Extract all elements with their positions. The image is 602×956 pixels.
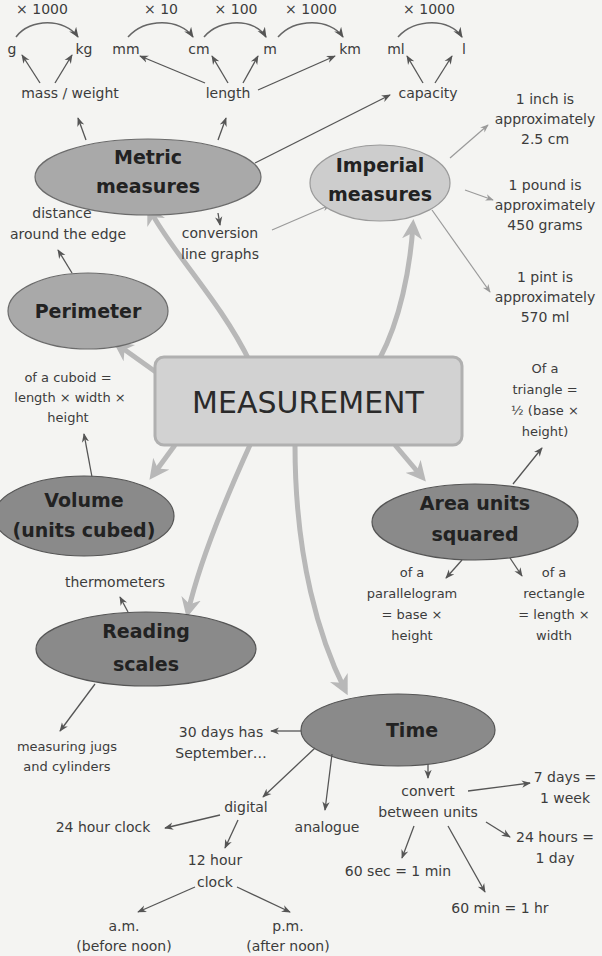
september-1: 30 days has bbox=[179, 724, 264, 740]
arrow-to-length bbox=[218, 118, 226, 140]
length-label: length bbox=[206, 85, 251, 101]
area-title-1: Area units bbox=[420, 492, 530, 514]
parallelogram-2: parallelogram bbox=[367, 586, 458, 601]
conversion-line-2: line graphs bbox=[181, 246, 259, 262]
curve-m-km bbox=[278, 23, 343, 37]
day-1: 24 hours = bbox=[516, 829, 594, 845]
am-1: a.m. bbox=[108, 918, 139, 934]
min-conversion: 60 sec = 1 min bbox=[345, 863, 451, 879]
unit-kg: kg bbox=[76, 41, 93, 57]
volume-desc-1: of a cuboid = bbox=[24, 370, 111, 385]
arrow-length-km bbox=[258, 56, 335, 90]
connector-to-reading bbox=[188, 445, 250, 612]
arrow-capacity-ml bbox=[407, 56, 423, 83]
arrow-mass-kg bbox=[55, 55, 72, 83]
volume-ellipse bbox=[0, 476, 174, 556]
imperial-title-1: Imperial bbox=[336, 154, 425, 176]
pm-2: (after noon) bbox=[246, 938, 329, 954]
mind-map: MEASUREMENT Metric measures mass / weigh… bbox=[0, 0, 602, 956]
volume-title-1: Volume bbox=[44, 489, 123, 511]
arrow-mass-g bbox=[22, 55, 40, 83]
connector-to-time bbox=[295, 445, 345, 690]
inch-fact-1: 1 inch is bbox=[516, 91, 574, 107]
factor-cm-m: × 100 bbox=[215, 1, 258, 17]
arrow-to-mass bbox=[78, 118, 86, 140]
metric-title-1: Metric bbox=[114, 146, 182, 168]
unit-m: m bbox=[263, 41, 277, 57]
curve-ml-l bbox=[398, 23, 462, 37]
curve-cm-m bbox=[204, 23, 266, 37]
arrow-digital bbox=[263, 748, 315, 797]
area-node: Area units squared bbox=[372, 484, 578, 560]
area-title-2: squared bbox=[431, 523, 518, 545]
metric-title-2: measures bbox=[96, 175, 200, 197]
mass-label: mass / weight bbox=[21, 85, 119, 101]
arrow-analogue bbox=[325, 754, 332, 810]
imperial-node: Imperial measures bbox=[310, 145, 450, 221]
convert-1: convert bbox=[401, 783, 455, 799]
unit-ml: ml bbox=[387, 41, 405, 57]
center-title: MEASUREMENT bbox=[192, 385, 424, 420]
pint-fact-2: approximately bbox=[495, 289, 596, 305]
pound-fact-2: approximately bbox=[495, 197, 596, 213]
reading-title-2: scales bbox=[113, 653, 179, 675]
arrow-clock24 bbox=[165, 815, 220, 828]
unit-g: g bbox=[8, 41, 17, 57]
arrow-rectangle bbox=[510, 558, 522, 576]
factor-mm-cm: × 10 bbox=[144, 1, 178, 17]
hr-conversion: 60 min = 1 hr bbox=[451, 900, 549, 916]
perimeter-desc-1: distance bbox=[32, 205, 91, 221]
triangle-2: triangle = bbox=[512, 382, 577, 397]
arrow-length-mm bbox=[140, 56, 205, 83]
arrow-week bbox=[468, 783, 530, 791]
arrow-length-cm bbox=[212, 56, 228, 83]
clock12-1: 12 hour bbox=[188, 852, 243, 868]
capacity-label: capacity bbox=[398, 85, 457, 101]
arrow-to-conversion bbox=[218, 213, 220, 225]
day-2: 1 day bbox=[535, 850, 574, 866]
rectangle-2: rectangle bbox=[523, 586, 584, 601]
volume-desc-3: height bbox=[47, 410, 88, 425]
arrow-capacity-l bbox=[435, 56, 452, 83]
perimeter-desc-2: around the edge bbox=[10, 226, 126, 242]
arrow-pound bbox=[465, 190, 493, 200]
arrow-am bbox=[138, 887, 195, 912]
factor-ml-l: × 1000 bbox=[403, 1, 455, 17]
clock12-2: clock bbox=[197, 874, 234, 890]
volume-node: Volume (units cubed) bbox=[0, 476, 174, 556]
digital-label: digital bbox=[224, 799, 268, 815]
pound-fact-3: 450 grams bbox=[507, 217, 582, 233]
arrow-pm bbox=[237, 887, 290, 912]
curve-g-kg bbox=[16, 23, 78, 37]
jugs-2: and cylinders bbox=[23, 759, 110, 774]
curve-mm-cm bbox=[128, 23, 193, 37]
triangle-1: Of a bbox=[532, 361, 559, 376]
clock24-label: 24 hour clock bbox=[56, 819, 152, 835]
volume-desc-2: length × width × bbox=[14, 390, 125, 405]
reading-node: Reading scales bbox=[36, 612, 256, 686]
connector-to-area bbox=[395, 445, 422, 477]
parallelogram-1: of a bbox=[400, 565, 425, 580]
perimeter-title: Perimeter bbox=[35, 300, 142, 322]
arrow-inch bbox=[450, 125, 488, 158]
parallelogram-3: = base × bbox=[381, 607, 442, 622]
arrow-length-m bbox=[243, 56, 258, 83]
pound-fact-1: 1 pound is bbox=[508, 177, 581, 193]
imperial-title-2: measures bbox=[328, 183, 432, 205]
week-1: 7 days = bbox=[534, 769, 597, 785]
unit-km: km bbox=[339, 41, 361, 57]
factor-m-km: × 1000 bbox=[285, 1, 337, 17]
analogue-label: analogue bbox=[295, 819, 360, 835]
time-node: Time bbox=[301, 694, 495, 766]
rectangle-4: width bbox=[536, 628, 572, 643]
rectangle-1: of a bbox=[542, 565, 567, 580]
week-2: 1 week bbox=[540, 790, 591, 806]
arrow-perimeter-desc bbox=[58, 250, 72, 273]
parallelogram-4: height bbox=[391, 628, 432, 643]
inch-fact-2: approximately bbox=[495, 111, 596, 127]
arrow-parallelogram bbox=[446, 560, 462, 578]
reading-title-1: Reading bbox=[102, 620, 190, 642]
connector-to-imperial bbox=[380, 225, 413, 358]
am-2: (before noon) bbox=[76, 938, 171, 954]
unit-cm: cm bbox=[188, 41, 209, 57]
